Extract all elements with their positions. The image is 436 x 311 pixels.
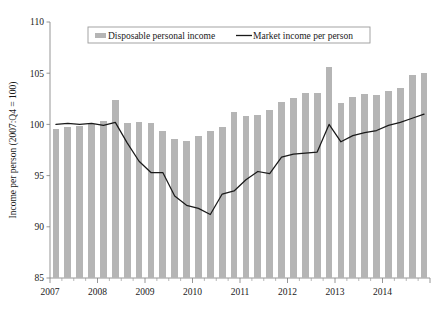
bar	[397, 88, 404, 278]
bar	[254, 115, 261, 278]
y-tick-label: 105	[30, 69, 45, 79]
bar	[243, 116, 250, 278]
bar	[76, 126, 83, 278]
bar	[349, 97, 356, 278]
x-tick-label: 2009	[136, 287, 155, 297]
x-tick-label: 2014	[373, 287, 392, 297]
bar	[88, 124, 95, 278]
y-axis-title: Income per person (2007:Q4 = 100)	[8, 81, 19, 218]
bar	[53, 129, 60, 279]
x-tick-label: 2012	[278, 287, 297, 297]
chart-figure: Income per person (2007:Q4 = 100) 859095…	[0, 0, 436, 311]
bar	[290, 98, 297, 278]
bar	[171, 139, 178, 278]
chart-canvas: Income per person (2007:Q4 = 100) 859095…	[0, 0, 436, 311]
bar	[136, 122, 143, 278]
bar	[195, 136, 202, 278]
bar	[183, 141, 190, 278]
x-tick-label: 2008	[88, 287, 107, 297]
y-tick-label: 85	[35, 273, 45, 283]
bar	[373, 95, 380, 278]
bar	[421, 73, 428, 278]
bar	[100, 121, 107, 278]
bar	[326, 67, 333, 278]
x-tick-label: 2007	[41, 287, 60, 297]
y-tick-label: 100	[30, 120, 45, 130]
legend-label-market-income-per-person: Market income per person	[253, 31, 353, 41]
x-tick-label: 2010	[183, 287, 202, 297]
bar	[266, 110, 273, 278]
bar	[385, 91, 392, 278]
x-tick-label: 2011	[231, 287, 250, 297]
bar	[338, 103, 345, 278]
y-tick-label: 95	[35, 171, 45, 181]
y-tick-label: 110	[30, 17, 44, 27]
bar	[314, 93, 321, 278]
bar	[278, 102, 285, 278]
legend-label-disposable-personal-income: Disposable personal income	[108, 31, 215, 41]
bar	[148, 123, 155, 278]
bar	[361, 94, 368, 278]
bar	[231, 112, 238, 278]
bar	[302, 93, 309, 278]
bar	[409, 75, 416, 278]
chart-legend: Disposable personal income Market income…	[88, 27, 370, 43]
bar	[207, 131, 214, 278]
bar	[64, 127, 71, 278]
bar	[219, 127, 226, 278]
x-tick-label: 2013	[326, 287, 345, 297]
legend-swatch-bar	[95, 33, 106, 38]
bar	[159, 131, 166, 278]
y-tick-label: 90	[35, 222, 45, 232]
